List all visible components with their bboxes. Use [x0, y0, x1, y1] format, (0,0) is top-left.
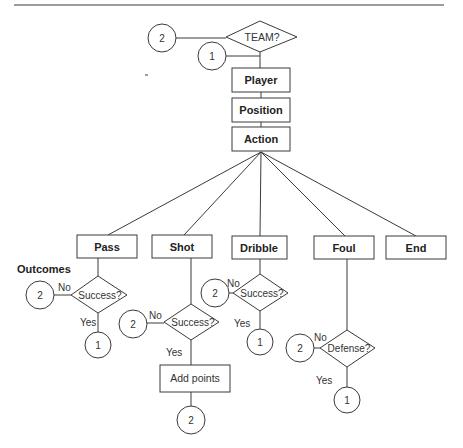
connector-label: 2: [188, 415, 194, 426]
connector-label: 2: [37, 290, 43, 301]
shot-label: Shot: [170, 241, 195, 253]
yes-label: Yes: [234, 318, 250, 329]
team-decision-label: TEAM?: [244, 31, 279, 43]
connector-label: 2: [297, 343, 303, 354]
no-label: No: [314, 332, 327, 343]
dribble-outcome: Success? No 2 Yes 1: [201, 259, 288, 355]
position-label: Position: [239, 104, 283, 116]
foul-outcome: Defense? No 2 Yes 1: [286, 259, 375, 413]
decision-label: Defense?: [328, 343, 371, 354]
connector-label: 1: [209, 51, 215, 62]
decision-label: Success?: [171, 317, 215, 328]
connector-label: 1: [344, 395, 350, 406]
flowchart-canvas: 2 TEAM? 1 Player Position Action Pass Sh…: [0, 0, 463, 448]
action-label: Action: [244, 133, 279, 145]
sequence-boxes: Player Position Action: [232, 68, 290, 151]
yes-label: Yes: [166, 347, 182, 358]
no-label: No: [149, 310, 162, 321]
action-branches: [108, 152, 416, 236]
connector-label: 2: [159, 33, 165, 44]
dribble-label: Dribble: [240, 242, 278, 254]
action-boxes: Pass Shot Dribble Foul End: [77, 235, 446, 259]
add-points-label: Add points: [170, 372, 220, 384]
yes-label: Yes: [316, 375, 332, 386]
decision-label: Success?: [240, 288, 284, 299]
connector-label: 2: [130, 319, 136, 330]
player-label: Player: [244, 74, 278, 86]
team-decision: 2 TEAM? 1: [148, 21, 297, 70]
foul-label: Foul: [332, 242, 355, 254]
pass-label: Pass: [94, 241, 120, 253]
decision-label: Success?: [78, 290, 122, 301]
connector-label: 1: [257, 337, 263, 348]
connector-label: 1: [95, 340, 101, 351]
connector-label: 2: [212, 288, 218, 299]
outcomes-heading: Outcomes: [17, 263, 71, 275]
yes-label: Yes: [80, 317, 96, 328]
end-label: End: [406, 242, 427, 254]
no-label: No: [58, 282, 71, 293]
no-label: No: [227, 278, 240, 289]
